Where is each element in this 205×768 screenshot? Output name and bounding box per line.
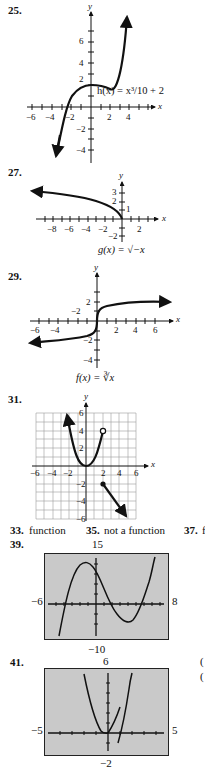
x-tick-31: 4 [117,468,122,478]
problem-number-33: 33. [10,524,24,536]
y-axis-label-31: y [84,391,88,401]
problem-number-35: 35. [86,524,100,536]
x-tick-31: −6 [30,468,40,478]
calculator-screen-39 [44,553,169,640]
x-tick-31: 2 [101,468,106,478]
problem-number-39: 39. [10,538,24,550]
x-tick-31: −2 [63,468,73,478]
calculator-screen-41 [44,668,169,756]
margin-mark: ( [200,655,204,667]
answer-37: f [202,524,205,536]
x-tick-31: −4 [47,468,57,478]
window-xmin-41: −5 [31,724,43,736]
window-ymax-41: 6 [103,655,109,667]
window-xmax-41: 5 [172,724,178,736]
window-ymin-39: −10 [88,643,105,655]
window-xmax-39: 8 [172,595,178,607]
y-tick-31: −4 [76,496,86,506]
window-xmin-39: −6 [31,595,43,607]
graph-41 [45,669,167,754]
window-ymin-41: −2 [100,757,112,768]
graph-39 [45,554,167,638]
y-tick-31: 6 [79,408,84,418]
problem-number-41: 41. [10,656,24,668]
answer-33: function [29,524,66,536]
graph-31 [0,0,205,525]
answer-35: not a function [104,524,165,536]
x-tick-31: 6 [134,468,139,478]
margin-mark: ( [200,670,204,682]
y-tick-31: −6 [76,514,86,524]
problem-number-37: 37. [184,524,198,536]
y-tick-31: 2 [79,443,84,453]
y-tick-31: −2 [76,479,86,489]
x-axis-label-31: x [151,459,155,469]
window-ymax-39: 15 [92,538,103,550]
y-tick-31: 4 [79,426,84,436]
